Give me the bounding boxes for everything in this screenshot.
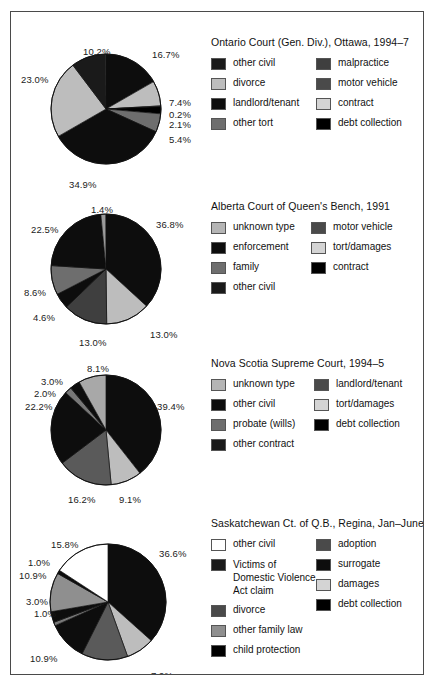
legend-item-label: other family law	[233, 624, 302, 637]
legend-swatch-icon	[316, 579, 331, 591]
pie-percent-label: 1.4%	[91, 204, 113, 215]
legend-item[interactable]: enforcement	[211, 241, 311, 254]
legend-item-label: tort/damages	[333, 241, 391, 254]
pie-percent-label: 15.8%	[51, 539, 78, 550]
legend-swatch-icon	[211, 559, 226, 571]
pie-percent-label: 10.2%	[83, 46, 110, 57]
legend-title: Ontario Court (Gen. Div.), Ottawa, 1994–…	[211, 36, 409, 48]
legend-item[interactable]: unknown type	[211, 221, 311, 234]
pie-percent-label: 23.0%	[21, 74, 48, 85]
legend-block-1: Ontario Court (Gen. Div.), Ottawa, 1994–…	[211, 36, 409, 57]
legend-item[interactable]: other civil	[211, 281, 311, 294]
legend-item-label: unknown type	[233, 221, 295, 234]
legend-item[interactable]: motor vehicle	[311, 221, 421, 234]
legend-swatch-icon	[211, 98, 226, 110]
pie-percent-label: 2.1%	[169, 119, 191, 130]
pie-percent-label: 8.6%	[24, 287, 46, 298]
legend-column-right: adoptionsurrogatedamagesdebt collection	[316, 538, 424, 618]
pie-percent-label: 10.9%	[30, 653, 57, 664]
legend-item[interactable]: surrogate	[316, 558, 424, 571]
pie-percent-label: 10.9%	[19, 570, 46, 581]
legend-item-label: motor vehicle	[333, 221, 392, 234]
legend-item-label: contract	[338, 97, 374, 110]
legend-swatch-icon	[211, 118, 226, 130]
legend-block-2: Alberta Court of Queen's Bench, 1991unkn…	[211, 200, 390, 221]
legend-item[interactable]: other civil	[211, 57, 316, 70]
legend-item[interactable]: divorce	[211, 604, 316, 617]
legend-swatch-icon	[316, 539, 331, 551]
legend-item[interactable]: landlord/tenant	[211, 97, 316, 110]
pie-percent-label: 1.0%	[34, 608, 56, 619]
legend-item[interactable]: other civil	[211, 538, 316, 551]
legend-swatch-icon	[316, 58, 331, 70]
legend-item[interactable]: unknown type	[211, 378, 314, 391]
legend-item[interactable]: family	[211, 261, 311, 274]
legend-swatch-icon	[211, 645, 226, 657]
legend-swatch-icon	[211, 222, 226, 234]
pie-percent-label: 9.1%	[119, 494, 141, 505]
legend-item[interactable]: child protection	[211, 644, 316, 657]
legend-swatch-icon	[211, 282, 226, 294]
legend-item[interactable]: adoption	[316, 538, 424, 551]
legend-column-left: other civildivorcelandlord/tenantother t…	[211, 57, 316, 137]
legend-item[interactable]: debt collection	[316, 598, 424, 611]
legend-item-label: divorce	[233, 604, 265, 617]
legend-item[interactable]: tort/damages	[314, 398, 424, 411]
pie-percent-label: 2.0%	[34, 388, 56, 399]
legend-item-label: other civil	[233, 538, 275, 551]
legend-column-left: unknown typeother civilprobate (wills)ot…	[211, 378, 314, 458]
legend-item-label: landlord/tenant	[233, 97, 299, 110]
legend-item[interactable]: debt collection	[314, 418, 424, 431]
pie-percent-label: 8.1%	[87, 363, 109, 374]
legend-swatch-icon	[211, 605, 226, 617]
legend-item[interactable]: other family law	[211, 624, 316, 637]
legend-title: Alberta Court of Queen's Bench, 1991	[211, 200, 390, 212]
legend-item[interactable]: other civil	[211, 398, 314, 411]
legend-item[interactable]: damages	[316, 578, 424, 591]
pie-percent-label: 39.4%	[157, 401, 184, 412]
legend-item-label: motor vehicle	[338, 77, 397, 90]
pie-percent-label: 5.4%	[169, 134, 191, 145]
legend-swatch-icon	[316, 118, 331, 130]
legend-title: Nova Scotia Supreme Court, 1994–5	[211, 357, 384, 369]
legend-item[interactable]: contract	[311, 261, 421, 274]
legend-item[interactable]: other tort	[211, 117, 316, 130]
legend-item-label: tort/damages	[336, 398, 394, 411]
legend-column-left: other civilVictims of Domestic Violence …	[211, 538, 316, 664]
legend-item-label: enforcement	[233, 241, 289, 254]
legend-item[interactable]: malpractice	[316, 57, 424, 70]
pie-chart-2	[50, 213, 162, 325]
legend-item-label: debt collection	[338, 598, 402, 611]
legend-item[interactable]: landlord/tenant	[314, 378, 424, 391]
legend-item[interactable]: probate (wills)	[211, 418, 314, 431]
pie-percent-label: 7.4%	[169, 97, 191, 108]
legend-item-label: debt collection	[336, 418, 400, 431]
legend-item-label: other contract	[233, 438, 294, 451]
legend-item[interactable]: motor vehicle	[316, 77, 424, 90]
legend-swatch-icon	[311, 262, 326, 274]
legend-item-label: damages	[338, 578, 379, 591]
legend-item[interactable]: debt collection	[316, 117, 424, 130]
pie-chart-4	[49, 543, 167, 661]
legend-swatch-icon	[314, 399, 329, 411]
legend-swatch-icon	[211, 58, 226, 70]
legend-item-label: malpractice	[338, 57, 389, 70]
legend-item-label: other civil	[233, 398, 275, 411]
legend-item-label: other tort	[233, 117, 273, 130]
pie-percent-label: 22.5%	[31, 224, 58, 235]
legend-item-label: Victims of Domestic Violence Act claim	[233, 558, 316, 597]
legend-item-label: other civil	[233, 281, 275, 294]
legend-item[interactable]: tort/damages	[311, 241, 421, 254]
pie-percent-label: 34.9%	[69, 179, 96, 190]
legend-item-label: landlord/tenant	[336, 378, 402, 391]
legend-item[interactable]: contract	[316, 97, 424, 110]
legend-item[interactable]: Victims of Domestic Violence Act claim	[211, 558, 316, 597]
pie-percent-label: 22.2%	[25, 401, 52, 412]
pie-svg-1	[50, 53, 162, 165]
pie-percent-label: 13.0%	[150, 329, 177, 340]
legend-column-right: motor vehicletort/damagescontract	[311, 221, 421, 281]
legend-item[interactable]: other contract	[211, 438, 314, 451]
pie-chart-1	[50, 53, 162, 165]
legend-item[interactable]: divorce	[211, 77, 316, 90]
pie-svg-3	[50, 374, 162, 486]
